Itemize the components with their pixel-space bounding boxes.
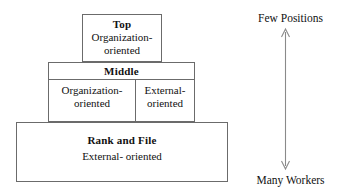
tier-middle-right-line-2: oriented bbox=[136, 97, 194, 110]
tier-top-subtitle-line-2: oriented bbox=[83, 44, 161, 57]
tier-top-subtitle-line-1: Organization- bbox=[83, 31, 161, 44]
tier-top-title: Top bbox=[83, 18, 161, 31]
tier-middle-title: Middle bbox=[49, 63, 194, 80]
axis-label-few-positions: Few Positions bbox=[232, 11, 349, 25]
pyramid-tier-top: Top Organization- oriented bbox=[82, 14, 162, 62]
tier-middle-column-external: External- oriented bbox=[136, 80, 194, 121]
tier-middle-column-organization: Organization- oriented bbox=[49, 80, 136, 121]
position-count-axis: Few Positions Many Workers bbox=[232, 0, 349, 193]
tier-rank-and-file-title: Rank and File bbox=[17, 134, 227, 147]
diagram-canvas: Top Organization- oriented Middle Organi… bbox=[0, 0, 349, 193]
double-headed-vertical-arrow-icon bbox=[232, 26, 349, 172]
pyramid-tier-middle: Middle Organization- oriented External- … bbox=[48, 62, 195, 122]
tier-middle-right-line-1: External- bbox=[136, 84, 194, 97]
tier-middle-left-line-2: oriented bbox=[49, 97, 135, 110]
axis-label-many-workers: Many Workers bbox=[232, 173, 349, 187]
pyramid-tier-rank-and-file: Rank and File External- oriented bbox=[16, 122, 228, 182]
tier-middle-columns: Organization- oriented External- oriente… bbox=[49, 80, 194, 121]
tier-middle-left-line-1: Organization- bbox=[49, 84, 135, 97]
tier-rank-and-file-subtitle: External- oriented bbox=[17, 150, 227, 163]
